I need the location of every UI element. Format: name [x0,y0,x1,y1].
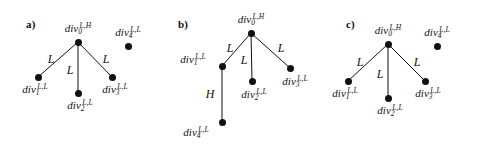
node-label-a-div3: div3L,L [102,83,127,96]
node-label-base: div [183,126,196,138]
node-label-b-div4: div4L,L [183,126,208,139]
node-label-base: div [22,83,35,95]
node-label-superscript: L,L [256,87,267,96]
edge-label-c-div0-div1: L [357,56,364,68]
tree-node-a-div1 [35,74,42,81]
node-label-c-div4: div4L,L [424,26,449,39]
tree-node-c-div3 [422,78,429,85]
edge-label-c-div0-div3: L [414,56,421,68]
node-label-base: div [67,99,80,111]
node-label-c-div1: div1L,L [332,87,357,100]
node-label-superscript: L,L [195,52,206,61]
tree-node-a-div4 [125,43,132,50]
tree-edges-c [312,0,479,146]
node-label-superscript: L,L [82,98,93,107]
tree-node-a-div3 [109,74,116,81]
tree-node-b-div0 [248,30,255,37]
node-label-superscript: L,L [37,82,48,91]
node-label-base: div [332,87,345,99]
node-label-c-div0: div0L,H [375,24,402,37]
division-tree-figure: a)LLLdiv0L,Hdiv1L,Ldiv2L,Ldiv3L,Ldiv4L,L… [0,0,479,146]
tree-node-c-div1 [345,78,352,85]
node-label-superscript: L,H [390,23,402,32]
node-label-a-div2: div2L,L [67,99,92,112]
node-label-b-div0: div0L,H [238,13,265,26]
node-label-a-div1: div1L,L [22,83,47,96]
node-label-superscript: L,L [347,86,358,95]
node-label-b-div3: div3L,L [282,75,307,88]
node-label-base: div [180,53,193,65]
node-label-base: div [377,104,390,116]
edge-label-a-div0-div2: L [67,64,74,76]
node-label-superscript: L,L [439,25,450,34]
tree-node-c-div4 [434,43,441,50]
node-label-superscript: L,L [297,74,308,83]
node-label-base: div [102,83,115,95]
panel-a: a)LLLdiv0L,Hdiv1L,Ldiv2L,Ldiv3L,Ldiv4L,L [0,0,156,146]
node-label-superscript: L,H [80,21,92,30]
node-label-base: div [424,26,437,38]
node-label-superscript: L,L [198,125,209,134]
node-label-base: div [65,22,78,34]
node-label-base: div [115,26,128,38]
edge-label-a-div0-div3: L [103,53,110,65]
node-label-superscript: L,L [117,82,128,91]
edge-label-a-div0-div1: L [48,53,55,65]
node-label-base: div [375,24,388,36]
node-label-a-div0: div0L,H [65,22,92,35]
node-label-superscript: L,L [130,25,141,34]
node-label-superscript: L,L [392,103,403,112]
node-label-base: div [241,88,254,100]
tree-node-c-div2 [385,95,392,102]
node-label-c-div2: div2L,L [377,104,402,117]
edge-label-c-div0-div2: L [377,68,384,80]
tree-node-b-div2 [249,78,256,85]
node-label-base: div [282,75,295,87]
edge-label-b-div0-div1: L [227,42,234,54]
edge-label-b-div0-div2: L [241,54,248,66]
node-label-b-div2: div2L,L [241,88,266,101]
node-label-superscript: L,L [430,86,441,95]
node-label-a-div4: div4L,L [115,26,140,39]
node-label-b-div1: div1L,L [180,53,205,66]
node-label-base: div [415,87,428,99]
edge-label-b-div0-div3: L [278,42,285,54]
tree-edges-b [156,0,312,146]
tree-edge-b-div0-div2 [251,33,252,81]
tree-node-a-div0 [75,39,82,46]
node-label-base: div [238,13,251,25]
panel-b: b)LLLHdiv0L,Hdiv1L,Ldiv2L,Ldiv3L,Ldiv4L,… [156,0,312,146]
panel-c: c)LLLdiv0L,Hdiv1L,Ldiv2L,Ldiv3L,Ldiv4L,L [312,0,479,146]
tree-node-c-div0 [385,41,392,48]
tree-node-b-div3 [287,65,294,72]
node-label-superscript: L,H [253,12,265,21]
edge-label-b-div1-div4: H [206,88,215,100]
tree-node-b-div1 [219,63,226,70]
tree-node-b-div4 [219,119,226,126]
node-label-c-div3: div3L,L [415,87,440,100]
tree-node-a-div2 [75,90,82,97]
